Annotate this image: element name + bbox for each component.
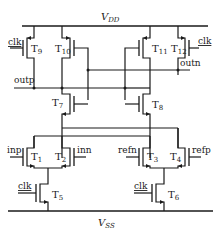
transistor-t4: refp T4	[164, 128, 211, 168]
t4-label: T4	[170, 151, 182, 164]
outn-label: outn	[180, 58, 201, 68]
vss-label: VSS	[98, 217, 115, 230]
refn-label: refn	[118, 145, 137, 155]
inp-label: inp	[7, 145, 22, 155]
transistor-t10: T10	[55, 26, 88, 100]
t2-label: T2	[55, 151, 66, 164]
t8-label: T8	[152, 99, 163, 112]
t5-label: T5	[52, 189, 63, 202]
transistor-t5: clk T5	[18, 168, 63, 211]
transistor-t2: inn T2	[48, 136, 92, 168]
t10-label: T10	[55, 43, 71, 56]
clk-label-t12: clk	[198, 36, 212, 46]
clk-label-t5: clk	[18, 181, 32, 191]
transistor-t11: T11	[125, 26, 168, 100]
t7-label: T7	[52, 97, 63, 110]
vdd-label: VDD	[101, 11, 120, 24]
transistor-t7: T7	[52, 88, 88, 128]
transistor-t3: refn T3	[118, 136, 164, 168]
transistor-t1: inp T1	[7, 136, 48, 168]
t9-label: T9	[31, 43, 42, 56]
t3-label: T3	[147, 151, 158, 164]
inn-label: inn	[77, 145, 92, 155]
comparator-schematic: VDD VSS clk T9 T10 outp T11 clk	[0, 0, 220, 238]
clk-label-t9: clk	[8, 37, 22, 47]
t6-label: T6	[168, 189, 180, 202]
outp-label: outp	[14, 75, 35, 85]
t12-label: T12	[171, 43, 187, 56]
transistor-t6: clk T6	[134, 168, 180, 211]
t1-label: T1	[31, 151, 42, 164]
clk-label-t6: clk	[134, 181, 148, 191]
refp-label: refp	[192, 145, 211, 155]
transistor-t8: T8	[125, 75, 163, 136]
t11-label: T11	[152, 43, 168, 56]
